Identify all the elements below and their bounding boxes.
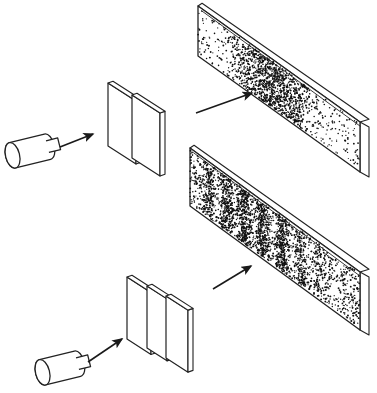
detection-screen-single — [197, 3, 369, 177]
plate-edge-slab — [160, 111, 165, 176]
screen-side-slab — [360, 122, 369, 177]
double-slit-figure — [0, 0, 377, 393]
electron-gun — [33, 348, 93, 387]
experiment-single-slit — [3, 3, 369, 177]
detection-screen-double — [189, 145, 369, 335]
experiment-double-slit — [33, 145, 369, 386]
screen-side-slab — [360, 272, 369, 335]
plate-edge-slab — [188, 308, 193, 372]
beam-arrow — [60, 134, 93, 147]
beam-arrow — [88, 339, 122, 362]
screen-face — [198, 6, 360, 172]
double-slit-barrier — [127, 275, 193, 372]
diagram-canvas — [0, 0, 377, 393]
barrier-plate — [166, 294, 193, 372]
result-arrow — [196, 93, 252, 113]
electron-gun — [3, 131, 63, 170]
single-slit-barrier — [108, 81, 165, 176]
result-arrow — [213, 266, 251, 289]
